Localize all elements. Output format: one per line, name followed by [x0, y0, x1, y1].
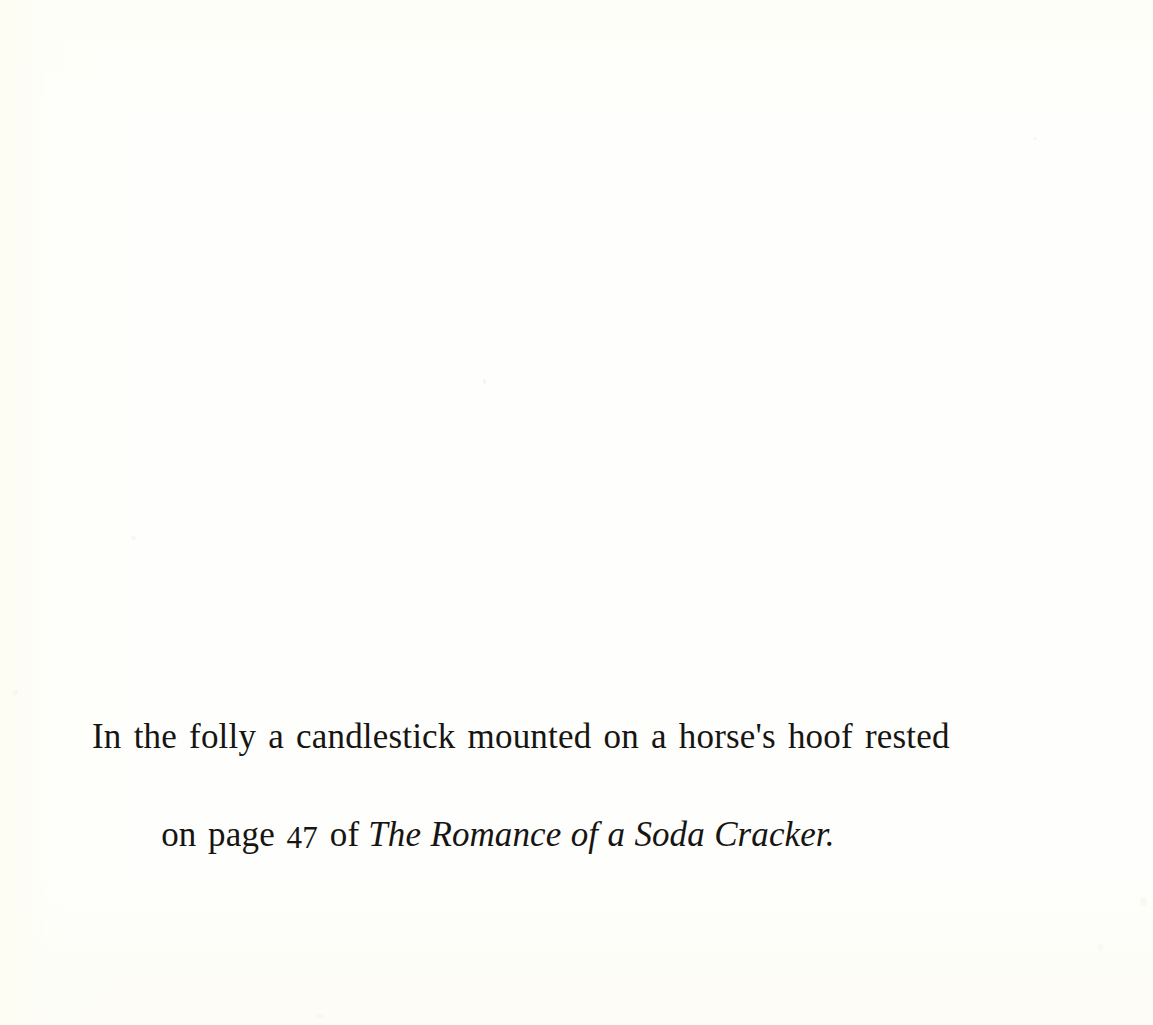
paper-fleck: [1033, 137, 1037, 140]
scanned-page: In the folly a candlestick mounted on a …: [0, 0, 1153, 1025]
line-2-before-page-number: on page: [161, 815, 286, 854]
body-text-line-1: In the folly a candlestick mounted on a …: [92, 712, 1102, 761]
paper-fleck: [131, 536, 136, 540]
paper-fleck: [1140, 897, 1147, 906]
paper-fleck: [315, 1014, 324, 1018]
paper-fleck: [12, 690, 18, 695]
paper-fleck: [483, 379, 486, 384]
line-2-after-page-number: of: [318, 815, 359, 854]
book-title: The Romance of a Soda Cracker.: [368, 815, 834, 854]
page-number: 47: [286, 813, 318, 862]
body-text-line-2: on page 47 ofThe Romance of a Soda Crack…: [92, 761, 1102, 909]
body-text-block: In the folly a candlestick mounted on a …: [92, 712, 1102, 909]
paper-fleck: [1098, 944, 1103, 951]
